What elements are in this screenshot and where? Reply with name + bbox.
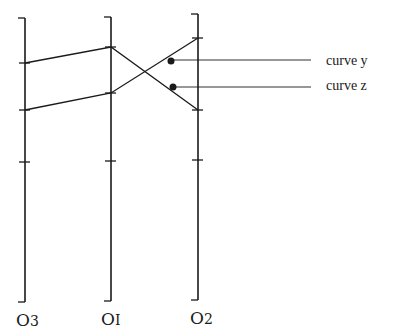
axis-o3 (18, 18, 30, 302)
curve-marker-dot (168, 58, 175, 65)
labels-layer: curve y curve z O3 OI O2 (16, 53, 368, 330)
axes-layer (18, 14, 203, 302)
axis-o1 (104, 17, 116, 301)
axis-o2-label: O2 (190, 308, 213, 328)
axis-o3-label: O3 (16, 310, 39, 330)
curve-y-label: curve y (326, 53, 368, 68)
axis-o2 (191, 14, 203, 300)
curve-marker-dot (170, 84, 177, 91)
curve-z-label: curve z (326, 78, 367, 93)
curve-z (25, 38, 311, 110)
axis-o1-label: OI (101, 309, 120, 329)
axes-diagram: curve y curve z O3 OI O2 (0, 0, 401, 334)
curves-layer (25, 38, 311, 110)
